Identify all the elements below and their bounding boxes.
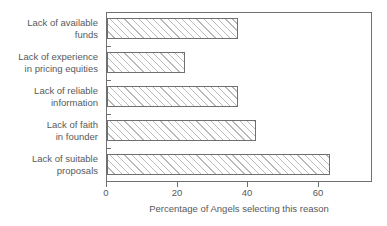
y-axis-tick [106,80,111,81]
x-axis-tick-label-3: 60 [298,187,338,198]
y-axis-label-4: Lack of suitable proposals [2,153,98,176]
bar-lack-of-experience-in-pricing-equities [107,52,185,73]
bar-lack-of-faith-in-founder [107,120,256,141]
y-axis-tick [106,148,111,149]
plot-area [106,12,372,182]
x-axis-tick-label-0: 0 [86,187,126,198]
y-axis-label-3: Lack of faith in founder [2,119,98,142]
x-axis-title: Percentage of Angels selecting this reas… [106,203,372,214]
bar-lack-of-available-funds [107,18,238,39]
bar-chart: Lack of available funds Lack of experien… [0,0,387,226]
y-axis-tick [106,114,111,115]
y-axis-label-1: Lack of experience in pricing equities [2,51,98,74]
bar-lack-of-suitable-proposals [107,154,330,175]
y-axis-tick [106,46,111,47]
y-axis-label-2: Lack of reliable information [2,85,98,108]
bar-lack-of-reliable-information [107,86,238,107]
x-axis-tick-label-2: 40 [227,187,267,198]
x-axis-tick-label-1: 20 [157,187,197,198]
y-axis-label-0: Lack of available funds [2,17,98,40]
